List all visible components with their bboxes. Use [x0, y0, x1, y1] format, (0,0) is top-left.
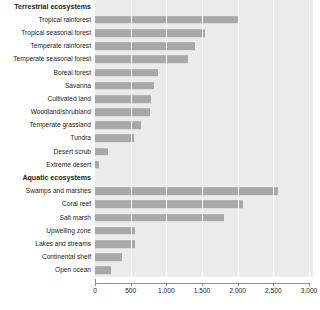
category-label: Swamps and marshes: [0, 187, 95, 195]
bar-cell: [95, 145, 313, 158]
category-label: Savanna: [0, 82, 95, 90]
x-axis-tick: [202, 283, 203, 286]
x-axis-tick: [238, 283, 239, 286]
bar: [95, 227, 135, 235]
bar-cell: [95, 0, 313, 13]
bar: [95, 16, 238, 24]
group-header-row: Aquatic ecosystems: [0, 171, 320, 184]
category-label: Tropical rainforest: [0, 16, 95, 24]
bar-row: Boreal forest: [0, 66, 320, 79]
bar: [95, 135, 134, 143]
bar-cell: [95, 92, 313, 105]
bar: [95, 253, 122, 261]
bar-cell: [95, 251, 313, 264]
bar-row: Savanna: [0, 79, 320, 92]
bar-row: Continental shelf: [0, 251, 320, 264]
bar-cell: [95, 198, 313, 211]
category-label: Continental shelf: [0, 253, 95, 261]
category-label: Temperate rainforest: [0, 42, 95, 50]
x-axis-tick-label: 2,000: [229, 287, 246, 295]
category-label: Desert scrub: [0, 148, 95, 156]
x-axis-tick-label: 3,000: [301, 287, 318, 295]
bar-row: Lakes and streams: [0, 237, 320, 250]
bar: [95, 121, 141, 129]
category-label: Open ocean: [0, 266, 95, 274]
x-axis-tick: [131, 283, 132, 286]
category-label: Tundra: [0, 134, 95, 142]
chart-rows-container: Terrestrial ecosystemsTropical rainfores…: [0, 0, 320, 283]
bar-row: Coral reef: [0, 198, 320, 211]
bar-cell: [95, 53, 313, 66]
bar: [95, 42, 195, 50]
bar: [95, 95, 151, 103]
category-label: Temperate grassland: [0, 121, 95, 129]
category-label: Coral reef: [0, 200, 95, 208]
bar-cell: [95, 171, 313, 184]
bar-row: Temperate grassland: [0, 119, 320, 132]
bar-cell: [95, 26, 313, 39]
bar-row: Temperate rainforest: [0, 40, 320, 53]
bar-row: Tundra: [0, 132, 320, 145]
bar-row: Tropical seasonal forest: [0, 26, 320, 39]
bar: [95, 267, 111, 275]
bar-row: Cultivated land: [0, 92, 320, 105]
x-axis-tick: [95, 283, 96, 286]
bar-cell: [95, 264, 313, 277]
bar-row: Swamps and marshes: [0, 185, 320, 198]
bar-row: Tropical rainforest: [0, 13, 320, 26]
bar: [95, 240, 135, 248]
category-label: Boreal forest: [0, 69, 95, 77]
x-axis-tick: [166, 283, 167, 286]
bar: [95, 148, 108, 156]
group-header-row: Terrestrial ecosystems: [0, 0, 320, 13]
bar-cell: [95, 106, 313, 119]
category-label: Upwelling zone: [0, 227, 95, 235]
x-axis-tick: [273, 283, 274, 286]
category-label: Extreme desert: [0, 161, 95, 169]
bar: [95, 201, 243, 209]
x-axis-tick-label: 0: [93, 287, 97, 295]
bar-cell: [95, 40, 313, 53]
category-label: Woodland/shrubland: [0, 108, 95, 116]
x-axis-tick-label: 1,500: [194, 287, 211, 295]
bar-cell: [95, 237, 313, 250]
category-label: Cultivated land: [0, 95, 95, 103]
bar-row: Extreme desert: [0, 158, 320, 171]
bar-cell: [95, 158, 313, 171]
x-axis-tick-label: 500: [125, 287, 136, 295]
x-axis: 05001,0001,5002,0002,5003,000: [95, 283, 313, 310]
bar-row: Woodland/shrubland: [0, 106, 320, 119]
bar-chart: Terrestrial ecosystemsTropical rainfores…: [0, 0, 320, 310]
bar: [95, 187, 278, 195]
bar-row: Salt marsh: [0, 211, 320, 224]
group-label: Terrestrial ecosystems: [0, 3, 95, 11]
x-axis-tick: [309, 283, 310, 286]
category-label: Salt marsh: [0, 214, 95, 222]
bar-cell: [95, 79, 313, 92]
x-axis-tick-label: 2,500: [265, 287, 282, 295]
bar-row: Desert scrub: [0, 145, 320, 158]
bar: [95, 161, 99, 169]
bar: [95, 29, 205, 37]
bar-cell: [95, 119, 313, 132]
bar: [95, 108, 150, 116]
bar-cell: [95, 185, 313, 198]
bar: [95, 214, 224, 222]
group-label: Aquatic ecosystems: [0, 174, 95, 182]
bar-row: Temperate seasonal forest: [0, 53, 320, 66]
category-label: Lakes and streams: [0, 240, 95, 248]
bar-row: Upwelling zone: [0, 224, 320, 237]
bar: [95, 69, 158, 77]
category-label: Temperate seasonal forest: [0, 55, 95, 63]
bar: [95, 56, 188, 64]
bar: [95, 82, 154, 90]
bar-cell: [95, 13, 313, 26]
bar-cell: [95, 211, 313, 224]
category-label: Tropical seasonal forest: [0, 29, 95, 37]
bar-row: Open ocean: [0, 264, 320, 277]
bar-cell: [95, 224, 313, 237]
bar-cell: [95, 132, 313, 145]
x-axis-tick-label: 1,000: [158, 287, 175, 295]
bar-cell: [95, 66, 313, 79]
